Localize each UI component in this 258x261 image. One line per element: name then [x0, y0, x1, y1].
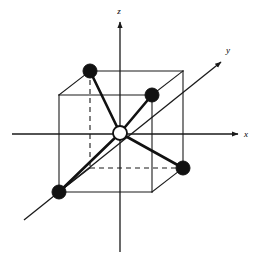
x-axis-label: x: [243, 129, 248, 139]
y-axis-label: y: [225, 45, 230, 55]
atom-back-top-left: [83, 64, 97, 78]
atom-back-bottom-right: [176, 161, 190, 175]
bond-to-back-top-left: [90, 71, 120, 133]
atom-front-bottom-left: [52, 185, 66, 199]
axes-group: z x y: [12, 6, 248, 252]
figure-root: z x y: [0, 0, 258, 261]
atom-front-top-right: [145, 88, 159, 102]
central-atom: [113, 126, 127, 140]
z-axis-label: z: [116, 6, 121, 16]
cube-hidden-edges: [90, 71, 183, 168]
bond-to-front-bottom-left: [59, 133, 120, 192]
crystal-structure-figure: z x y: [0, 0, 258, 261]
